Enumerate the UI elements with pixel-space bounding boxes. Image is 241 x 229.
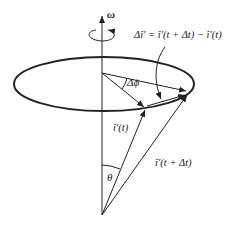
i-t-label: î′(t)	[113, 123, 128, 134]
delta-phi-label: Δϕ	[127, 77, 139, 88]
diagram-canvas: ω Δî′ = î′(t + Δt) − î′(t) Δϕ î′(t) î′(t…	[0, 0, 241, 229]
radius-t-dt	[102, 73, 186, 91]
vector-i-t-dt	[102, 95, 187, 215]
theta-label: θ	[107, 172, 112, 183]
omega-label: ω	[107, 9, 115, 20]
precession-circle	[14, 57, 194, 111]
delta-i-leader	[156, 47, 165, 99]
i-t-dt-label: î′(t + Δt)	[155, 158, 192, 169]
delta-i-label: Δî′ = î′(t + Δt) − î′(t)	[134, 30, 222, 41]
theta-arc	[102, 165, 120, 169]
